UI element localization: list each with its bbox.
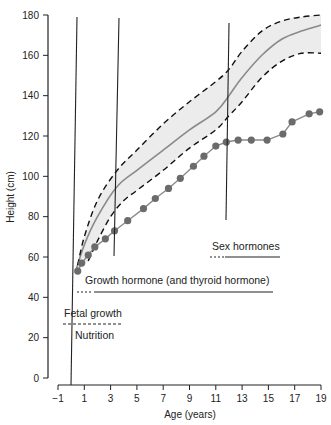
x-tick-label: 7 [160,393,166,404]
patient-data-point [200,153,207,160]
patient-data-point [263,136,270,143]
y-tick-label: 40 [28,292,40,303]
x-tick-label: 1 [82,393,88,404]
normal-range-band [75,15,321,273]
x-axis-title: Age (years) [164,409,216,420]
y-tick-label: 0 [33,373,39,384]
x-tick-label: 15 [263,393,275,404]
x-tick-label: 9 [187,393,193,404]
patient-data-point [140,205,147,212]
patient-data-point [74,268,81,275]
normal-range-fill [75,15,321,273]
patient-data-point [212,142,219,149]
y-tick-label: 60 [28,252,40,263]
nutrition-label: Nutrition [75,329,114,341]
y-tick-label: 120 [22,131,39,142]
patient-data-point [288,118,295,125]
patient-data-point [223,138,230,145]
y-tick-label: 20 [28,332,40,343]
axes: 020406080100120140160180 −11357911131517… [5,10,327,421]
patient-data-point [235,136,242,143]
x-tick-label: 19 [315,393,327,404]
x-tick-label: −1 [52,393,64,404]
patient-data-point [306,110,313,117]
patient-data-point [102,235,109,242]
median-growth-line [75,25,321,273]
y-tick-label: 160 [22,50,39,61]
patient-data-point [85,251,92,258]
x-tick-label: 17 [289,393,301,404]
y-axis-title: Height (cm) [5,171,16,223]
patient-data-point [91,243,98,250]
early-childhood-marker-line [114,18,119,256]
x-tick-label: 11 [211,393,222,404]
y-tick-label: 100 [22,171,39,182]
y-tick-label: 180 [22,10,39,21]
patient-data-point [165,185,172,192]
patient-data-point [152,195,159,202]
x-tick-label: 5 [134,393,140,404]
patient-data-point [177,175,184,182]
annotations: Sex hormones Growth hormone (and thyroid… [63,240,280,341]
x-ticks: −1135791113151719 [52,385,327,404]
patient-data-point [279,130,286,137]
x-tick-label: 3 [108,393,114,404]
patient-data-point [124,217,131,224]
patient-data-point [78,259,85,266]
y-tick-label: 140 [22,90,39,101]
y-tick-label: 80 [28,211,40,222]
y-ticks: 020406080100120140160180 [22,10,48,384]
fetal-growth-label: Fetal growth [64,307,122,319]
growth-hormone-label: Growth hormone (and thyroid hormone) [85,274,269,286]
patient-data-point [316,108,323,115]
x-tick-label: 13 [237,393,249,404]
growth-chart: 020406080100120140160180 −11357911131517… [0,0,331,425]
sex-hormones-label: Sex hormones [212,240,280,252]
patient-data-point [248,136,255,143]
puberty-marker-line [226,23,229,220]
patient-data-point [190,163,197,170]
